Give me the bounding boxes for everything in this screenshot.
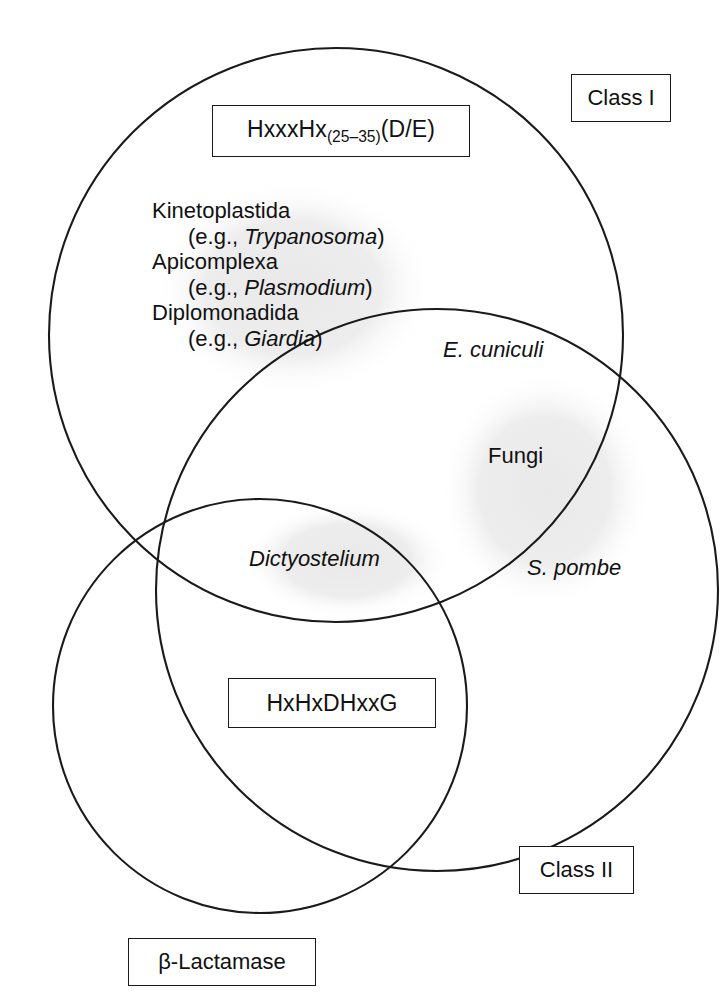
taxon-example-close: ) — [365, 275, 372, 300]
region-label-e-cuniculi: E. cuniculi — [443, 337, 543, 363]
taxon-example: (e.g., Plasmodium) — [152, 275, 384, 301]
class-1-label-box: Class I — [571, 74, 671, 122]
taxon-genus: Giardia — [244, 326, 315, 351]
motif-class-1-subscript: (25–35) — [327, 128, 381, 145]
motif-box-class-2: HxHxDHxxG — [228, 678, 436, 728]
class-2-label-box: Class II — [519, 846, 634, 894]
venn-diagram-figure: HxxxHx(25–35)(D/E) Kinetoplastida (e.g.,… — [0, 0, 728, 996]
taxon-example-prefix: (e.g., — [188, 275, 244, 300]
taxon-list: Kinetoplastida (e.g., Trypanosoma) Apico… — [152, 198, 384, 351]
beta-lactamase-label-box: β-Lactamase — [128, 938, 316, 986]
taxon-group-name: Apicomplexa — [152, 249, 278, 274]
motif-class-1-suffix: (D/E) — [381, 116, 435, 142]
motif-class-1-text: HxxxHx(25–35)(D/E) — [247, 116, 435, 146]
taxon-entry-apicomplexa: Apicomplexa (e.g., Plasmodium) — [152, 249, 384, 300]
taxon-entry-kinetoplastida: Kinetoplastida (e.g., Trypanosoma) — [152, 198, 384, 249]
taxon-group-name: Kinetoplastida — [152, 198, 290, 223]
taxon-group-name: Diplomonadida — [152, 300, 299, 325]
taxon-example-prefix: (e.g., — [188, 326, 244, 351]
taxon-genus: Plasmodium — [244, 275, 365, 300]
circle-class-2 — [156, 309, 718, 871]
region-label-dictyostelium: Dictyostelium — [249, 546, 380, 572]
taxon-example-prefix: (e.g., — [188, 224, 244, 249]
motif-box-class-1: HxxxHx(25–35)(D/E) — [212, 105, 470, 157]
region-label-s-pombe: S. pombe — [527, 555, 621, 581]
taxon-genus: Trypanosoma — [244, 224, 377, 249]
motif-class-1-prefix: HxxxHx — [247, 116, 327, 142]
taxon-entry-diplomonadida: Diplomonadida (e.g., Giardia) — [152, 300, 384, 351]
region-label-fungi: Fungi — [488, 443, 543, 469]
taxon-example-close: ) — [377, 224, 384, 249]
taxon-example: (e.g., Giardia) — [152, 326, 384, 352]
taxon-example-close: ) — [315, 326, 322, 351]
taxon-example: (e.g., Trypanosoma) — [152, 224, 384, 250]
